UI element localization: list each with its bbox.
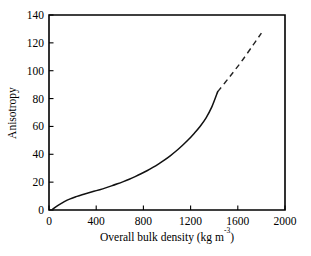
figure-container: 020406080100120140 0400800120016002000 O… <box>0 0 311 256</box>
y-tick-label: 100 <box>27 65 45 77</box>
y-tick-label: 40 <box>33 148 45 160</box>
x-tick-label: 1200 <box>179 215 202 227</box>
y-tick-label: 80 <box>33 93 45 105</box>
y-tick-label: 20 <box>33 176 45 188</box>
y-tick-label: 60 <box>33 120 45 132</box>
anisotropy-vs-bulk-density-chart: 020406080100120140 0400800120016002000 O… <box>0 0 311 256</box>
x-tick-label: 800 <box>135 215 153 227</box>
x-tick-label: 400 <box>88 215 106 227</box>
y-axis-title: Anisotropy <box>6 87 19 139</box>
x-tick-label: 2000 <box>274 215 297 227</box>
y-tick-label: 140 <box>27 9 45 21</box>
x-tick-label: 0 <box>46 215 52 227</box>
y-tick-label: 120 <box>27 37 45 49</box>
y-tick-label: 0 <box>38 204 44 216</box>
